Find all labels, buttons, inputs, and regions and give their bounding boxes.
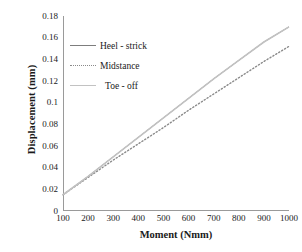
legend-item-toe-off: Toe - off bbox=[70, 76, 185, 96]
legend-label: Midstance bbox=[100, 61, 140, 71]
x-axis-tick-labels: 1002003004005006007008009001000 bbox=[63, 213, 289, 227]
y-tick-label: 0.02 bbox=[24, 185, 58, 194]
legend-swatch-light-icon bbox=[70, 81, 96, 91]
y-tick-label: 0.12 bbox=[24, 77, 58, 86]
y-tick-label: 0.08 bbox=[24, 120, 58, 129]
x-tick-label: 1000 bbox=[274, 213, 302, 223]
legend-item-heel-strick: Heel - strick bbox=[70, 36, 185, 56]
legend-item-midstance: Midstance bbox=[70, 56, 185, 76]
y-tick-label: 0.06 bbox=[24, 142, 58, 151]
y-tick-label: 0.14 bbox=[24, 55, 58, 64]
y-tick-label: 0.1 bbox=[24, 98, 58, 107]
chart-legend: Heel - strick Midstance Toe - off bbox=[70, 36, 185, 96]
y-tick-label: 0.04 bbox=[24, 163, 58, 172]
legend-label: Toe - off bbox=[105, 81, 138, 91]
x-axis-label: Moment (Nmm) bbox=[63, 229, 289, 240]
legend-label: Heel - strick bbox=[100, 41, 147, 51]
legend-swatch-solid-icon bbox=[70, 41, 96, 51]
chart-figure: Displacement (mm) 0.180.160.140.120.10.0… bbox=[0, 0, 302, 252]
y-tick-label: 0.18 bbox=[24, 12, 58, 21]
y-tick-label: 0.16 bbox=[24, 33, 58, 42]
legend-swatch-dotted-icon bbox=[70, 61, 96, 71]
